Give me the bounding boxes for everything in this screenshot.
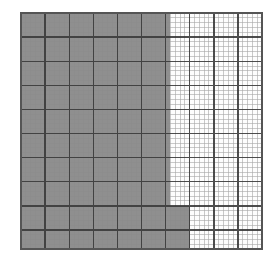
shaded-region [21, 13, 190, 249]
figure-canvas: Graph paper grid with shaded region [0, 0, 279, 270]
graph-paper-figure [0, 0, 279, 270]
